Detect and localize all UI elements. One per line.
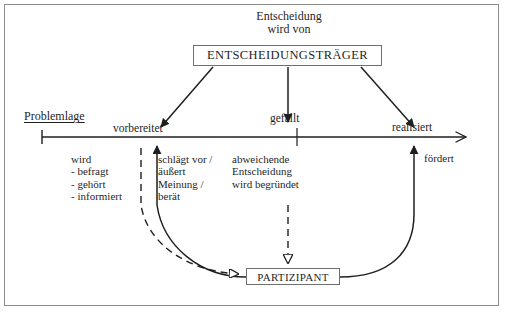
- annotation-promotes: fördert: [424, 152, 454, 164]
- stage-label-vorbereitet: vorbereitet: [113, 122, 163, 135]
- participant-node[interactable]: PARTIZIPANT: [246, 268, 340, 285]
- decision-caption: Entscheidung wird von: [219, 10, 359, 37]
- diagram-canvas: Entscheidung wird von ENTSCHEIDUNGSTRÄGE…: [0, 0, 505, 312]
- annotation-deviation-note: abweichende Entscheidung wird begründet: [232, 153, 299, 190]
- decider-node[interactable]: ENTSCHEIDUNGSTRÄGER: [193, 45, 382, 66]
- axis-start-label: Problemlage: [24, 110, 85, 123]
- stage-label-gefaellt: gefällt: [270, 112, 299, 125]
- annotation-participant-passive: wird - befragt - gehört - informiert: [71, 153, 122, 202]
- participant-to-realized-curve: [340, 146, 414, 277]
- stage-label-realisiert: realisiert: [392, 121, 432, 134]
- annotation-participant-active: schlägt vor / äußert Meinung / berät: [158, 153, 212, 202]
